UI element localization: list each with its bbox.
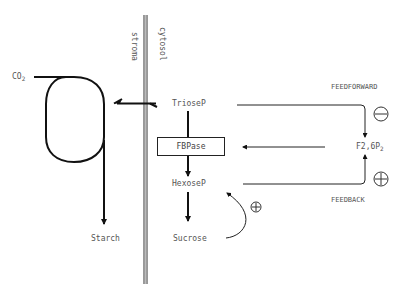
membrane [144,15,147,284]
triosep-label: TrioseP [172,100,206,108]
sucrose-plus-icon [251,202,261,212]
sucrose-label: Sucrose [173,235,207,243]
feedback-label: FEEDBACK [331,197,365,204]
cytosol-label: cytosol [158,27,166,61]
co2-label: CO2 [12,73,25,82]
sucrose-activation-arrow [226,193,246,238]
feedback-plus-icon [374,172,388,186]
feedforward-label: FEEDFORWARD [331,84,377,91]
hexosep-label: HexoseP [172,180,206,188]
fbpase-label: FBPase [177,142,206,151]
triose-exchange-arrow [114,99,157,107]
fbpase-box: FBPase [157,137,225,156]
calvin-cycle-loop [34,77,104,224]
f26p2-label: F2,6P2 [356,143,384,152]
stroma-label: stroma [130,32,138,61]
feedforward-minus-icon [374,107,388,121]
feedforward-arrow [237,105,365,137]
starch-label: Starch [91,235,120,243]
feedback-arrow [243,155,365,184]
